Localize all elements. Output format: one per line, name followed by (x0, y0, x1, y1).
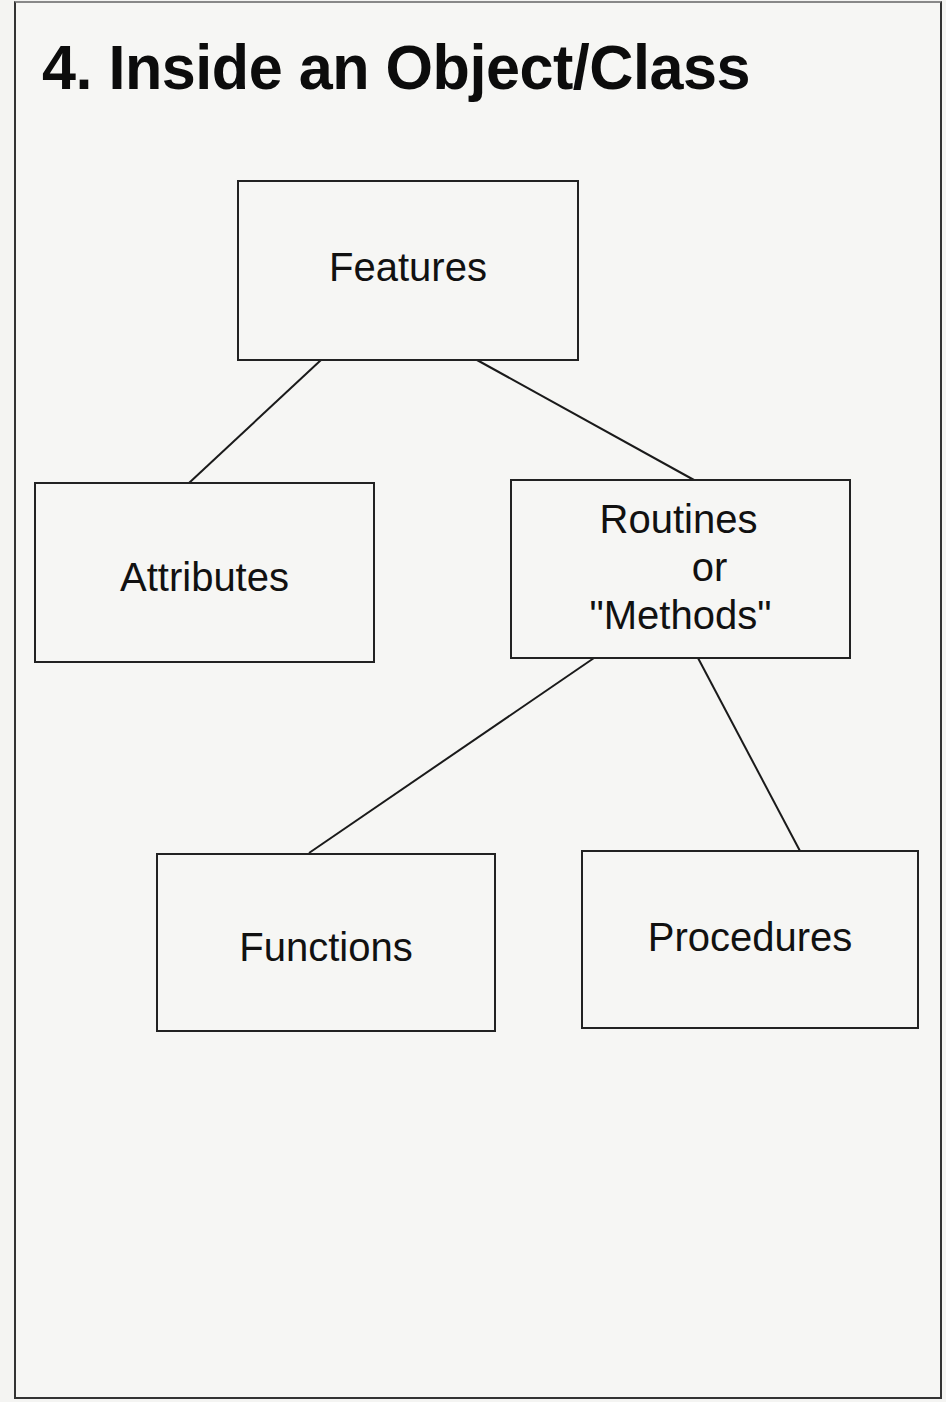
node-procedures: Procedures (581, 850, 919, 1029)
edge-routines-functions (309, 658, 594, 853)
node-procedures-label: Procedures (648, 913, 853, 961)
edge-features-routines (477, 360, 694, 480)
node-attributes: Attributes (34, 482, 375, 663)
node-attributes-label: Attributes (120, 553, 289, 601)
node-features: Features (237, 180, 579, 361)
node-routines-line-1: Routines (508, 495, 849, 543)
node-routines-line-2: or (570, 543, 849, 591)
node-functions-label: Functions (239, 923, 412, 971)
node-routines-line-3: "Methods" (512, 591, 849, 639)
node-features-label: Features (329, 243, 487, 291)
node-routines: Routines or "Methods" (510, 479, 851, 659)
edge-features-attributes (189, 360, 321, 483)
node-functions: Functions (156, 853, 496, 1032)
edge-routines-procedures (698, 658, 800, 851)
